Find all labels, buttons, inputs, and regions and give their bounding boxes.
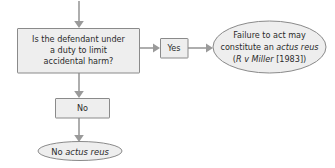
outcome-line-2-prefix: constitute an — [220, 42, 276, 52]
outcome-node-no-actus-reus[interactable]: No actus reus — [38, 142, 122, 161]
terminal-arrow — [74, 118, 84, 142]
outcome-line-1: Failure to act may — [233, 30, 306, 40]
decision-line-1: Is the defendant under — [32, 34, 125, 44]
branch-no-label: No — [77, 103, 88, 113]
outcome-line-2-italic: actus reus — [276, 42, 319, 52]
terminal-label-prefix: No — [51, 146, 65, 156]
decision-line-3: accidental harm? — [44, 56, 114, 66]
branch-node-yes[interactable]: Yes — [161, 39, 189, 59]
yes-arrow — [140, 44, 160, 53]
terminal-label-italic: actus reus — [65, 146, 109, 156]
outcome-line-3-italic: R v Miller — [236, 53, 274, 63]
decision-node-duty-question[interactable]: Is the defendant under a duty to limit a… — [18, 29, 140, 74]
outcome-arrow — [188, 44, 213, 53]
decision-line-2: a duty to limit — [50, 45, 107, 55]
flowchart-svg: Is the defendant under a duty to limit a… — [0, 0, 335, 168]
no-arrow — [74, 73, 84, 98]
outcome-node-actus-reus[interactable]: Failure to act may constitute an actus r… — [213, 21, 326, 73]
terminal-label: No actus reus — [51, 146, 109, 156]
branch-node-no[interactable]: No — [56, 99, 110, 119]
branch-yes-label: Yes — [166, 43, 180, 53]
outcome-line-2: constitute an actus reus — [220, 42, 319, 52]
flowchart-canvas: Is the defendant under a duty to limit a… — [0, 0, 335, 168]
entry-arrow — [74, 1, 84, 28]
outcome-line-3: (R v Miller [1983]) — [233, 53, 306, 63]
outcome-line-3-close: [1983]) — [274, 53, 307, 63]
